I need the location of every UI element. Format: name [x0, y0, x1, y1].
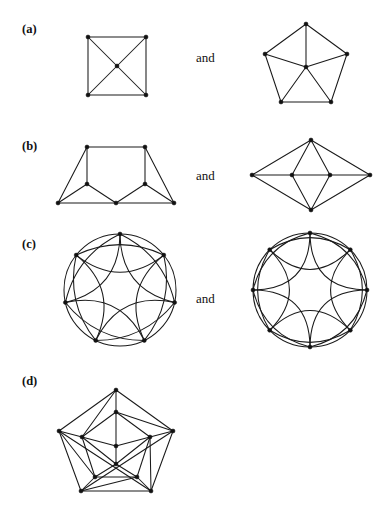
graph-edge: [306, 67, 331, 102]
graph-arc-edge: [310, 290, 367, 347]
graph-edge: [306, 54, 347, 67]
graph-vertex-m2: [135, 475, 139, 479]
graph-vertex-c: [115, 64, 119, 68]
graph-edge: [151, 431, 173, 491]
graph-vertex-o0: [114, 388, 118, 392]
graph-arc-edge: [76, 245, 164, 255]
graph-edge: [59, 390, 116, 431]
graph-arc-edge: [310, 290, 367, 347]
graph-vertex-o3: [79, 489, 83, 493]
graph-edge: [281, 67, 306, 102]
graph-arc-edge: [310, 233, 367, 290]
graph-vertex-bl: [56, 201, 60, 205]
graph-vertex-i0: [114, 444, 118, 448]
graph-edge: [59, 431, 81, 491]
graph-edge: [116, 412, 173, 431]
graph-edge: [87, 184, 116, 203]
graph-vertex-v4: [94, 338, 98, 342]
graph-circulant-arcs-seven: [62, 232, 184, 354]
graph-vertex-v0: [118, 232, 122, 236]
graph-arc-edge: [310, 233, 367, 290]
graph-edge: [116, 390, 173, 431]
graph-edge: [59, 431, 95, 477]
graph-edge: [116, 412, 150, 437]
graph-vertex-br: [144, 93, 148, 97]
graph-vertex-tr: [144, 35, 148, 39]
graph-circulant-arcs-eight: [250, 230, 376, 356]
graph-icosahedron-graph: [56, 386, 176, 496]
graph-vertex-p3: [279, 100, 283, 104]
conjunction-label-b: and: [196, 168, 215, 184]
graph-edge: [145, 147, 174, 203]
graph-vertex-v6: [251, 288, 255, 292]
graph-arc-edge: [331, 250, 351, 331]
graph-arc-edge: [144, 255, 166, 340]
graph-vertex-p4: [263, 52, 267, 56]
graph-edge: [82, 390, 116, 437]
graph-vertex-r: [368, 173, 372, 177]
graph-vertex-t: [309, 138, 313, 142]
graph-edge: [137, 437, 150, 477]
graph-edge: [331, 54, 347, 102]
graph-vertex-v1: [348, 248, 352, 252]
graph-vertex-v3: [142, 338, 146, 342]
graph-vertex-br: [172, 201, 176, 205]
graph-vertex-b: [309, 208, 313, 212]
graph-edge: [252, 140, 311, 175]
graph-vertex-v2: [173, 300, 177, 304]
graph-vertex-o2: [149, 489, 153, 493]
conjunction-label-a: and: [196, 50, 215, 66]
graph-edge: [137, 477, 151, 491]
graph-edge: [311, 140, 370, 175]
graph-edge: [116, 184, 145, 203]
graph-vertex-o4: [57, 429, 61, 433]
graph-vertex-tr: [143, 145, 147, 149]
graph-rhombus-with-inner-axis: [248, 136, 374, 214]
graph-vertex-v6: [74, 253, 78, 257]
graph-vertex-bm: [114, 201, 118, 205]
graph-vertex-i1: [114, 462, 118, 466]
graph-edge: [117, 66, 146, 95]
graph-trapezoid-seven-vertex: [52, 140, 178, 208]
graph-edge: [58, 147, 87, 203]
graph-pentagon-wheel: [262, 18, 354, 110]
graph-vertex-il: [290, 173, 294, 177]
graph-vertex-tl: [86, 35, 90, 39]
graph-vertex-l: [250, 173, 254, 177]
graph-vertex-v5: [63, 300, 67, 304]
graph-vertex-v2: [365, 288, 369, 292]
graph-arc-edge: [270, 311, 351, 331]
graph-arc-edge: [270, 250, 351, 270]
graph-edge: [265, 54, 281, 102]
graph-arc-edge: [253, 290, 310, 347]
graph-vertex-m4: [80, 435, 84, 439]
graph-vertex-v0: [308, 231, 312, 235]
graph-vertex-h: [304, 65, 308, 69]
graph-edge: [88, 37, 117, 66]
graph-edge: [150, 431, 173, 437]
graph-edge: [82, 437, 95, 477]
graph-edge: [88, 66, 117, 95]
graph-arc-edge: [76, 255, 164, 272]
graph-vertex-v7: [268, 248, 272, 252]
graph-arc-edge: [253, 290, 310, 347]
graph-vertex-m0: [114, 410, 118, 414]
graph-square-with-diagonals: [80, 28, 155, 106]
graph-figure-root: (a)and(b)and(c)and(d): [0, 0, 390, 520]
graph-vertex-m3: [93, 475, 97, 479]
graph-edge: [265, 24, 306, 54]
part-label-d: (d): [22, 374, 37, 389]
graph-arc-edge: [73, 255, 95, 340]
graph-edge: [117, 37, 146, 66]
graph-vertex-v4: [308, 345, 312, 349]
graph-vertex-tl: [85, 145, 89, 149]
graph-vertex-v5: [268, 328, 272, 332]
graph-vertex-ir: [328, 173, 332, 177]
part-label-b: (b): [22, 139, 37, 154]
graph-vertex-bl: [86, 93, 90, 97]
graph-edge: [81, 477, 137, 491]
graph-edge: [306, 24, 347, 54]
graph-vertex-p1: [345, 52, 349, 56]
graph-vertex-v3: [348, 328, 352, 332]
graph-vertex-m1: [148, 435, 152, 439]
